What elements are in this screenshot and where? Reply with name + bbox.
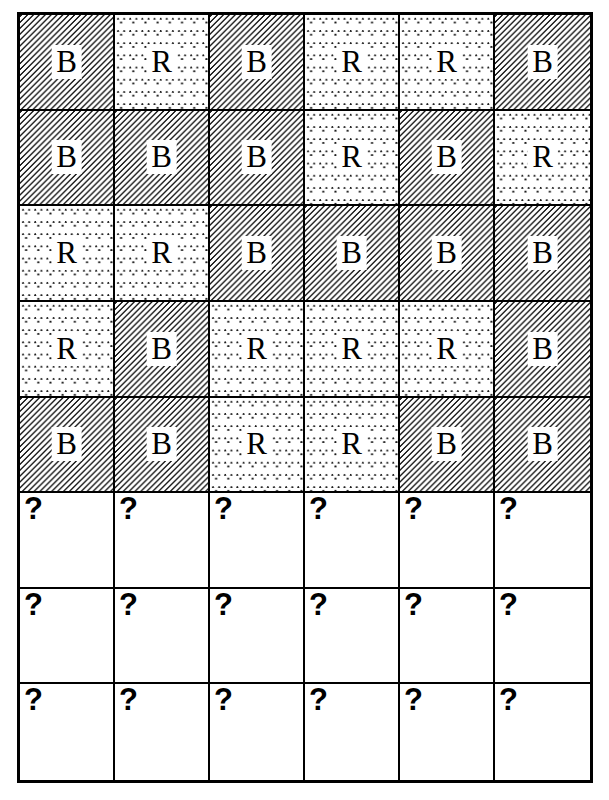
cell-letter: R <box>51 236 82 270</box>
cell-letter: R <box>431 332 462 366</box>
cell-letter: B <box>431 236 462 270</box>
unknown-marker: ? <box>404 684 423 717</box>
cell-letter: R <box>51 332 82 366</box>
unknown-marker: ? <box>499 493 518 526</box>
grid-cell: B <box>495 206 590 302</box>
grid-cell: B <box>20 111 115 207</box>
grid-cell: B <box>400 206 495 302</box>
grid-cell: R <box>305 15 400 111</box>
grid-cell[interactable]: ? <box>495 493 590 589</box>
grid-cell[interactable]: ? <box>305 589 400 685</box>
cell-letter: R <box>336 427 367 461</box>
grid-cell[interactable]: ? <box>115 684 210 780</box>
cell-letter: B <box>241 236 272 270</box>
cell-letter: B <box>146 140 177 174</box>
cell-letter: B <box>241 140 272 174</box>
grid-cell: B <box>495 398 590 494</box>
unknown-marker: ? <box>214 589 233 622</box>
grid-cell[interactable]: ? <box>495 684 590 780</box>
grid-cell[interactable]: ? <box>210 493 305 589</box>
grid-cell: B <box>400 398 495 494</box>
cell-letter: B <box>527 332 558 366</box>
grid-cell[interactable]: ? <box>210 589 305 685</box>
grid-cell: R <box>20 302 115 398</box>
unknown-marker: ? <box>214 684 233 717</box>
grid-cell[interactable]: ? <box>305 493 400 589</box>
unknown-marker: ? <box>309 589 328 622</box>
cell-letter: R <box>241 332 272 366</box>
cell-letter: R <box>431 45 462 79</box>
cell-letter: B <box>431 427 462 461</box>
unknown-marker: ? <box>24 684 43 717</box>
cell-letter: B <box>336 236 367 270</box>
grid-cell: B <box>400 111 495 207</box>
cell-letter: R <box>527 140 558 174</box>
unknown-marker: ? <box>119 493 138 526</box>
cell-letter: R <box>146 236 177 270</box>
puzzle-grid: BRBRRBBBBRBRRRBBBBRBRRRBBBRRBB??????????… <box>17 12 593 783</box>
cell-letter: B <box>241 45 272 79</box>
unknown-marker: ? <box>309 684 328 717</box>
grid-cell: B <box>115 111 210 207</box>
grid-cell: R <box>400 302 495 398</box>
unknown-marker: ? <box>404 493 423 526</box>
unknown-marker: ? <box>499 684 518 717</box>
cell-letter: R <box>336 140 367 174</box>
grid-cell: R <box>305 111 400 207</box>
grid-cell[interactable]: ? <box>400 493 495 589</box>
grid-cell: R <box>210 302 305 398</box>
grid-cell[interactable]: ? <box>495 589 590 685</box>
grid-cell: R <box>305 302 400 398</box>
grid-cell: B <box>210 111 305 207</box>
grid-cell: B <box>495 15 590 111</box>
cell-letter: B <box>146 332 177 366</box>
grid-cell[interactable]: ? <box>400 589 495 685</box>
grid-cell[interactable]: ? <box>210 684 305 780</box>
grid-cell: B <box>115 302 210 398</box>
cell-letter: B <box>51 45 82 79</box>
unknown-marker: ? <box>119 589 138 622</box>
grid-cell[interactable]: ? <box>115 589 210 685</box>
unknown-marker: ? <box>119 684 138 717</box>
unknown-marker: ? <box>214 493 233 526</box>
cell-letter: R <box>336 45 367 79</box>
cell-letter: R <box>241 427 272 461</box>
unknown-marker: ? <box>24 589 43 622</box>
grid-cell: R <box>115 15 210 111</box>
grid-cell[interactable]: ? <box>400 684 495 780</box>
cell-letter: B <box>146 427 177 461</box>
grid-cell: R <box>20 206 115 302</box>
grid-cell: B <box>115 398 210 494</box>
grid-cell[interactable]: ? <box>20 684 115 780</box>
unknown-marker: ? <box>309 493 328 526</box>
grid-cell: B <box>20 15 115 111</box>
grid-cell[interactable]: ? <box>115 493 210 589</box>
grid-cell: R <box>115 206 210 302</box>
cell-letter: B <box>527 236 558 270</box>
unknown-marker: ? <box>24 493 43 526</box>
grid-cell: R <box>210 398 305 494</box>
grid-cell: B <box>495 302 590 398</box>
cell-letter: B <box>431 140 462 174</box>
cell-letter: R <box>336 332 367 366</box>
cell-letter: B <box>51 140 82 174</box>
cell-letter: R <box>146 45 177 79</box>
cell-letter: B <box>527 427 558 461</box>
unknown-marker: ? <box>404 589 423 622</box>
grid-cell: B <box>305 206 400 302</box>
grid-cell[interactable]: ? <box>20 589 115 685</box>
grid-cell: B <box>210 206 305 302</box>
grid-cell: R <box>400 15 495 111</box>
grid-cell[interactable]: ? <box>20 493 115 589</box>
unknown-marker: ? <box>499 589 518 622</box>
cell-letter: B <box>51 427 82 461</box>
grid-cell[interactable]: ? <box>305 684 400 780</box>
grid-cell: R <box>495 111 590 207</box>
grid-cell: B <box>20 398 115 494</box>
grid-cell: R <box>305 398 400 494</box>
cell-letter: B <box>527 45 558 79</box>
grid-cell: B <box>210 15 305 111</box>
